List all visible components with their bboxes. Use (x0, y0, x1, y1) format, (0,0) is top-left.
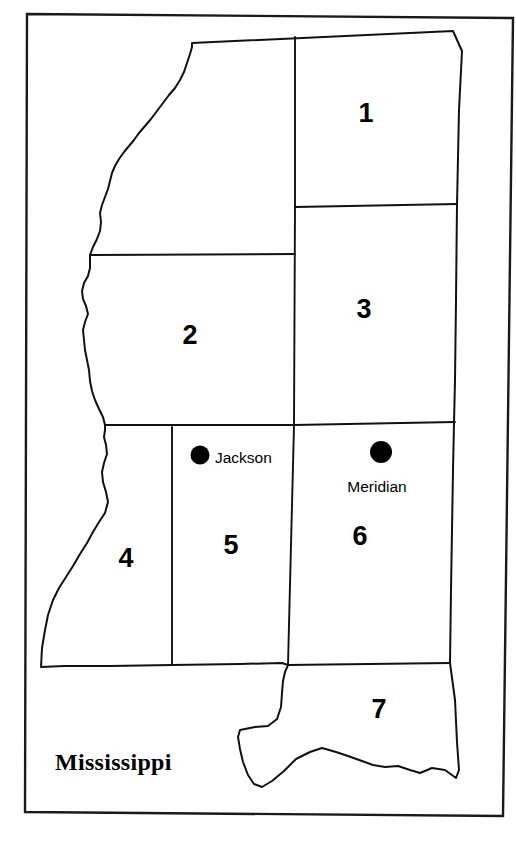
region-label-1: 1 (358, 98, 373, 128)
region-label-6: 6 (352, 521, 367, 551)
city-label-meridian: Meridian (347, 478, 406, 495)
region-label-3: 3 (356, 294, 371, 324)
region-label-5: 5 (223, 530, 238, 560)
mississippi-map-svg: 1 2 3 4 5 6 7 Jackson Meridian Mississip… (0, 0, 516, 846)
state-outline-mississippi (41, 31, 462, 787)
city-dot-jackson[interactable] (191, 446, 210, 465)
region-label-7: 7 (371, 694, 386, 724)
region-label-4: 4 (118, 543, 133, 573)
region-label-2: 2 (182, 320, 197, 350)
divider-region2-top (90, 254, 295, 255)
state-name-label: Mississippi (55, 749, 172, 775)
divider-vertical-central (294, 207, 295, 425)
city-label-jackson: Jackson (215, 449, 272, 466)
map-container: 1 2 3 4 5 6 7 Jackson Meridian Mississip… (0, 0, 516, 846)
city-dot-meridian[interactable] (370, 441, 392, 463)
